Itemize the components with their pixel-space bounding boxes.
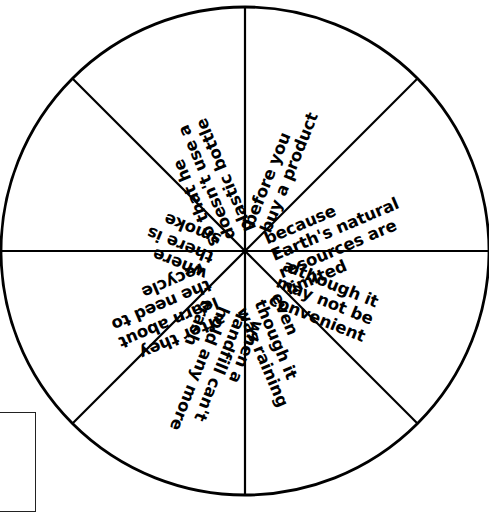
note-title: ner: [0, 419, 30, 435]
note-line-1: er: [0, 456, 30, 473]
note-line-0: lip: [0, 440, 30, 457]
note-line-2: r.: [0, 473, 30, 490]
instruction-note-box: ner lip er r.: [0, 412, 36, 512]
